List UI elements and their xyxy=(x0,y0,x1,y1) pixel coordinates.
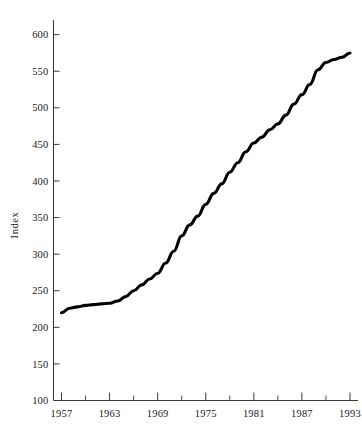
y-tick-label: 450 xyxy=(32,139,48,150)
x-tick-label: 1987 xyxy=(291,408,313,419)
x-tick-group xyxy=(62,393,350,401)
index-series-line xyxy=(62,53,350,313)
x-tick-label-group: 1957196319691975198119871993 xyxy=(51,408,361,419)
y-tick-group xyxy=(54,35,60,401)
x-tick-label: 1957 xyxy=(51,408,73,419)
y-tick-label: 350 xyxy=(32,212,48,223)
y-tick-label: 250 xyxy=(32,285,48,296)
y-tick-label: 500 xyxy=(32,102,48,113)
x-tick-label: 1981 xyxy=(243,408,265,419)
y-tick-label: 200 xyxy=(32,322,48,333)
y-axis-label: Index xyxy=(9,211,20,238)
y-tick-label: 150 xyxy=(32,359,48,370)
y-tick-label: 400 xyxy=(32,176,48,187)
y-tick-label: 100 xyxy=(32,395,48,406)
x-tick-label: 1975 xyxy=(195,408,217,419)
x-tick-label: 1969 xyxy=(147,408,169,419)
y-axis-label-group: Index xyxy=(9,211,20,238)
chart-figure: 100150200250300350400450500550600 195719… xyxy=(0,0,362,431)
line-chart-canvas: 100150200250300350400450500550600 195719… xyxy=(0,0,362,431)
y-tick-label: 600 xyxy=(32,29,48,40)
y-tick-label: 550 xyxy=(32,66,48,77)
y-tick-label-group: 100150200250300350400450500550600 xyxy=(32,29,48,406)
x-tick-label: 1963 xyxy=(99,408,121,419)
y-tick-label: 300 xyxy=(32,249,48,260)
x-tick-label: 1993 xyxy=(339,408,361,419)
